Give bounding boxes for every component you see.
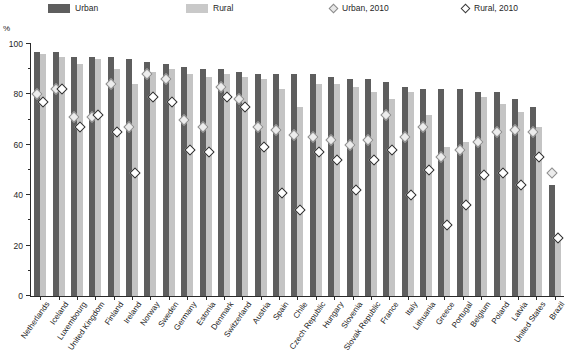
- bar-group[interactable]: [509, 44, 527, 296]
- white-diamond-marker-icon: [461, 4, 471, 14]
- bar-group[interactable]: [178, 44, 196, 296]
- legend-item-rural[interactable]: Rural: [186, 3, 233, 14]
- marker-urban-2010[interactable]: [546, 167, 557, 178]
- bar-rural[interactable]: [187, 74, 193, 296]
- legend-item-rural-2010[interactable]: Rural, 2010: [462, 3, 518, 14]
- bar-group[interactable]: [270, 44, 288, 296]
- bar-group[interactable]: [105, 44, 123, 296]
- bar-rural[interactable]: [555, 241, 561, 296]
- bar-group[interactable]: [31, 44, 49, 296]
- bar-rural[interactable]: [206, 77, 212, 296]
- bar-rural[interactable]: [371, 92, 377, 296]
- bar-rural[interactable]: [463, 142, 469, 296]
- y-tick-label: 0: [1, 291, 23, 301]
- bar-rural[interactable]: [150, 72, 156, 296]
- bar-rural[interactable]: [518, 112, 524, 296]
- bar-rural[interactable]: [40, 54, 46, 296]
- bar-group[interactable]: [399, 44, 417, 296]
- bar-group[interactable]: [417, 44, 435, 296]
- bar-group[interactable]: [307, 44, 325, 296]
- bar-rural[interactable]: [426, 115, 432, 296]
- bar-rural[interactable]: [334, 84, 340, 296]
- chart-legend: Urban Rural Urban, 2010 Rural, 2010: [0, 0, 569, 22]
- bar-group[interactable]: [288, 44, 306, 296]
- legend-label-rural: Rural: [213, 3, 233, 14]
- legend-label-urban-2010: Urban, 2010: [342, 3, 389, 14]
- x-tick-label: Italy: [403, 300, 419, 317]
- bar-group[interactable]: [68, 44, 86, 296]
- legend-item-urban[interactable]: Urban: [48, 3, 98, 14]
- y-tick-label: 20: [1, 241, 23, 251]
- bar-rural[interactable]: [316, 84, 322, 296]
- y-tick-label: 40: [1, 190, 23, 200]
- x-tick-label: Chile: [291, 300, 309, 320]
- y-tick-label: 60: [1, 140, 23, 150]
- bar-group[interactable]: [160, 44, 178, 296]
- bar-group[interactable]: [196, 44, 214, 296]
- bar-group[interactable]: [49, 44, 67, 296]
- dark-bar-swatch-icon: [48, 4, 70, 13]
- y-axis-unit-label: %: [3, 24, 10, 33]
- bar-group[interactable]: [343, 44, 361, 296]
- chart-container: Urban Rural Urban, 2010 Rural, 2010 % 02…: [0, 0, 569, 354]
- bar-group[interactable]: [546, 44, 564, 296]
- bar-group[interactable]: [454, 44, 472, 296]
- x-tick-label: Brazil: [547, 300, 566, 322]
- grey-diamond-marker-icon: [329, 4, 339, 14]
- bar-group[interactable]: [527, 44, 545, 296]
- x-tick-label: Austria: [250, 300, 272, 326]
- bar-rural[interactable]: [132, 84, 138, 296]
- x-tick-label: Spain: [271, 300, 290, 322]
- bar-group[interactable]: [380, 44, 398, 296]
- bar-group[interactable]: [233, 44, 251, 296]
- plot-area: 020406080100: [31, 44, 564, 296]
- bar-group[interactable]: [325, 44, 343, 296]
- bar-rural[interactable]: [224, 74, 230, 296]
- bar-group[interactable]: [362, 44, 380, 296]
- bar-group[interactable]: [490, 44, 508, 296]
- x-tick-label: France: [379, 300, 401, 326]
- legend-label-rural-2010: Rural, 2010: [474, 3, 518, 14]
- bar-group[interactable]: [215, 44, 233, 296]
- x-tick-label: Poland: [489, 300, 511, 326]
- bar-rural[interactable]: [95, 59, 101, 296]
- y-tick-label: 100: [1, 39, 23, 49]
- x-axis-labels: NetherlandsIcelandLuxembourgUnited Kingd…: [31, 300, 564, 354]
- bar-rural[interactable]: [481, 97, 487, 296]
- bar-rural[interactable]: [389, 99, 395, 296]
- bar-series-area: [31, 44, 564, 296]
- bar-rural[interactable]: [114, 69, 120, 296]
- bar-group[interactable]: [141, 44, 159, 296]
- bar-group[interactable]: [472, 44, 490, 296]
- light-bar-swatch-icon: [186, 4, 208, 13]
- bar-group[interactable]: [86, 44, 104, 296]
- bar-rural[interactable]: [261, 79, 267, 296]
- legend-item-urban-2010[interactable]: Urban, 2010: [330, 3, 389, 14]
- bar-group[interactable]: [123, 44, 141, 296]
- bar-group[interactable]: [435, 44, 453, 296]
- bar-rural[interactable]: [77, 64, 83, 296]
- y-tick-label: 80: [1, 89, 23, 99]
- legend-label-urban: Urban: [75, 3, 98, 14]
- x-tick-label: Netherlands: [19, 300, 51, 341]
- bar-group[interactable]: [252, 44, 270, 296]
